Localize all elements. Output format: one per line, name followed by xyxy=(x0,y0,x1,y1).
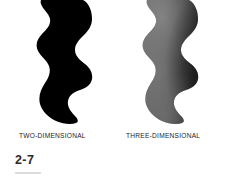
panel-three-dimensional xyxy=(128,0,216,128)
panel-two-dimensional xyxy=(22,0,110,128)
two-dimensional-blob-icon xyxy=(22,0,110,128)
figure-number: 2-7 xyxy=(15,152,75,168)
figure-page: TWO-DIMENSIONAL THREE-DIMENSIONAL 2-7 xyxy=(0,0,231,189)
caption-three-dimensional: THREE-DIMENSIONAL xyxy=(126,129,200,143)
caption-two-dimensional: TWO-DIMENSIONAL xyxy=(19,129,86,143)
figure-rule xyxy=(15,172,41,174)
panel-captions: TWO-DIMENSIONAL THREE-DIMENSIONAL xyxy=(0,129,231,143)
three-dimensional-blob-icon xyxy=(128,0,216,128)
figure-panels xyxy=(0,0,231,128)
figure-number-block: 2-7 xyxy=(15,152,75,174)
